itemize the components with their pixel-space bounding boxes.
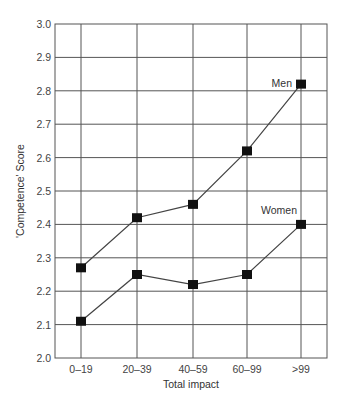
x-tick-label: 60–99 xyxy=(232,363,261,375)
y-axis-ticks: 2.02.12.22.32.42.52.62.72.82.93.0 xyxy=(36,18,51,364)
square-marker-icon xyxy=(242,146,252,155)
square-marker-icon xyxy=(76,263,86,272)
square-marker-icon xyxy=(242,270,252,279)
y-tick-label: 2.8 xyxy=(36,85,51,97)
y-tick-label: 2.7 xyxy=(36,118,51,130)
x-axis-ticks: 0–1920–3940–5960–99>99 xyxy=(69,363,310,375)
y-tick-label: 2.2 xyxy=(36,285,51,297)
square-marker-icon xyxy=(296,220,306,229)
y-tick-label: 2.1 xyxy=(36,319,51,331)
square-marker-icon xyxy=(188,200,198,209)
series-line-men xyxy=(81,84,301,268)
series-label-women: Women xyxy=(261,204,297,216)
grid xyxy=(55,24,327,358)
y-tick-label: 2.4 xyxy=(36,218,51,230)
y-tick-label: 2.9 xyxy=(36,51,51,63)
y-tick-label: 2.6 xyxy=(36,152,51,164)
x-tick-label: >99 xyxy=(292,363,310,375)
y-axis-title: 'Competence' Score xyxy=(14,144,26,238)
y-tick-label: 2.0 xyxy=(36,352,51,364)
x-tick-label: 0–19 xyxy=(69,363,93,375)
square-marker-icon xyxy=(76,317,86,326)
line-chart: 2.02.12.22.32.42.52.62.72.82.93.0 0–1920… xyxy=(0,0,347,403)
square-marker-icon xyxy=(132,213,142,222)
square-marker-icon xyxy=(296,80,306,89)
square-marker-icon xyxy=(132,270,142,279)
series-group: MenWomen xyxy=(76,77,306,326)
y-tick-label: 2.5 xyxy=(36,185,51,197)
x-tick-label: 40–59 xyxy=(178,363,207,375)
square-marker-icon xyxy=(188,280,198,289)
y-tick-label: 3.0 xyxy=(36,18,51,30)
x-axis-title: Total impact xyxy=(163,378,219,390)
x-tick-label: 20–39 xyxy=(122,363,151,375)
y-tick-label: 2.3 xyxy=(36,252,51,264)
series-label-men: Men xyxy=(272,77,293,89)
